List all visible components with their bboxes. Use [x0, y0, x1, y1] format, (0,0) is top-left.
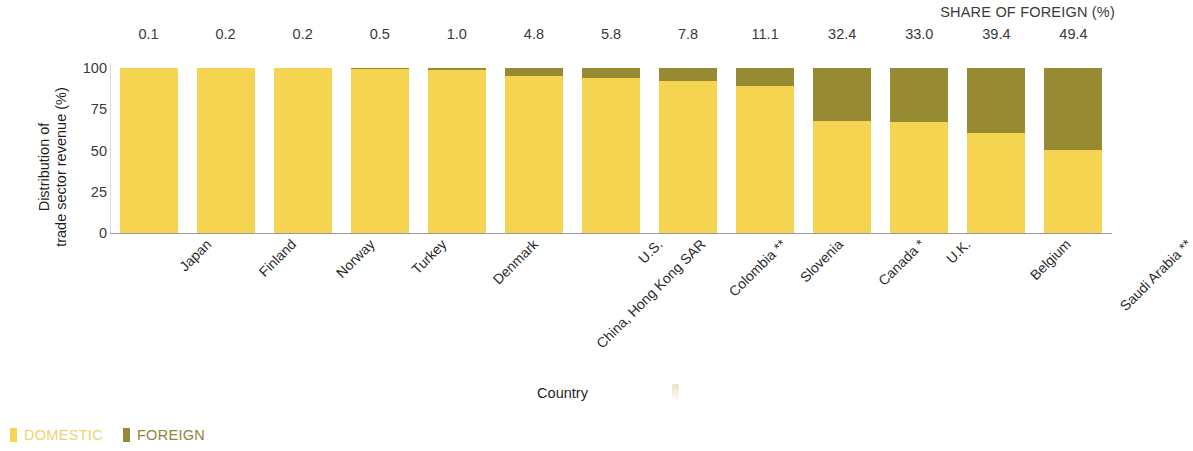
bar-segment-domestic[interactable]: [1044, 150, 1102, 233]
bar-segment-foreign[interactable]: [890, 68, 948, 122]
x-axis-tick-label: U.S.: [635, 236, 666, 267]
bar-segment-foreign[interactable]: [736, 68, 794, 86]
x-axis-title: Country: [0, 385, 1125, 401]
x-axis-tick-label: Saudi Arabia **: [1117, 236, 1193, 314]
bar-segment-domestic[interactable]: [736, 86, 794, 233]
x-axis-tick-label: Turkey: [408, 236, 449, 277]
legend: DOMESTIC FOREIGN: [10, 427, 205, 443]
x-axis-tick-label: Belgium: [1027, 236, 1074, 283]
bar-segment-domestic[interactable]: [582, 78, 640, 233]
data-label-row: 0.10.20.20.51.04.85.87.811.132.433.039.4…: [110, 26, 1112, 48]
data-label: 32.4: [828, 26, 856, 42]
bar[interactable]: [505, 68, 563, 233]
data-label: 39.4: [982, 26, 1010, 42]
data-label: 49.4: [1059, 26, 1087, 42]
y-axis-tick-label: 25: [47, 184, 107, 200]
legend-item-domestic: DOMESTIC: [10, 427, 103, 443]
x-axis-tick-label: U.K.: [943, 236, 974, 267]
bar-segment-domestic[interactable]: [120, 68, 178, 233]
bar[interactable]: [351, 68, 409, 233]
x-axis-tick-label: Japan: [176, 236, 214, 274]
bar[interactable]: [813, 68, 871, 233]
bar-segment-foreign[interactable]: [1044, 68, 1102, 150]
share-of-foreign-header: SHARE OF FOREIGN (%): [940, 4, 1115, 20]
bar[interactable]: [659, 68, 717, 233]
bar-segment-foreign[interactable]: [813, 68, 871, 121]
bar[interactable]: [582, 68, 640, 233]
plot-area: [110, 63, 1112, 234]
bar-segment-foreign[interactable]: [659, 68, 717, 81]
bar-segment-domestic[interactable]: [890, 122, 948, 233]
legend-swatch-domestic-icon: [10, 428, 17, 442]
x-axis-tick-label: Norway: [333, 236, 378, 281]
data-label: 11.1: [752, 26, 779, 42]
bar-segment-domestic[interactable]: [659, 81, 717, 233]
x-axis-tick-labels: JapanFinlandNorwayTurkeyDenmarkChina, Ho…: [110, 236, 1112, 366]
data-label: 0.2: [293, 26, 313, 42]
y-axis-tick-label: 75: [47, 101, 107, 117]
data-label: 7.8: [678, 26, 698, 42]
data-label: 0.1: [138, 26, 158, 42]
bar-segment-foreign[interactable]: [505, 68, 563, 76]
x-axis-tick-label: Finland: [255, 236, 299, 280]
bar-segment-foreign[interactable]: [582, 68, 640, 78]
data-label: 0.5: [370, 26, 390, 42]
bar-segment-domestic[interactable]: [428, 70, 486, 233]
x-axis-tick-label: Canada *: [875, 236, 928, 289]
bar-segment-domestic[interactable]: [967, 133, 1025, 233]
legend-swatch-foreign-icon: [123, 428, 130, 442]
legend-label-domestic: DOMESTIC: [24, 427, 103, 443]
bar-segment-foreign[interactable]: [967, 68, 1025, 133]
y-axis-tick-label: 0: [47, 225, 107, 241]
data-label: 5.8: [601, 26, 621, 42]
legend-item-foreign: FOREIGN: [123, 427, 205, 443]
x-axis-tick-label: Slovenia: [797, 236, 846, 285]
x-axis-tick-label: Colombia **: [726, 236, 790, 300]
bar[interactable]: [197, 68, 255, 233]
y-axis-tick-label: 100: [47, 60, 107, 76]
data-label: 33.0: [905, 26, 933, 42]
bar[interactable]: [890, 68, 948, 233]
x-axis-tick-label: Denmark: [489, 236, 540, 287]
data-label: 4.8: [524, 26, 544, 42]
bar-segment-domestic[interactable]: [813, 121, 871, 233]
bar[interactable]: [967, 68, 1025, 233]
bar-segment-domestic[interactable]: [351, 69, 409, 233]
y-axis-tick-label: 50: [47, 143, 107, 159]
scan-artifact: [672, 384, 679, 401]
bar-segment-domestic[interactable]: [197, 68, 255, 233]
bar-segment-domestic[interactable]: [505, 76, 563, 233]
legend-label-foreign: FOREIGN: [137, 427, 205, 443]
bar-segment-domestic[interactable]: [274, 68, 332, 233]
data-label: 1.0: [447, 26, 467, 42]
data-label: 0.2: [216, 26, 236, 42]
bar[interactable]: [428, 68, 486, 233]
bar[interactable]: [274, 68, 332, 233]
bar[interactable]: [736, 68, 794, 233]
bar[interactable]: [120, 68, 178, 233]
bar[interactable]: [1044, 68, 1102, 233]
